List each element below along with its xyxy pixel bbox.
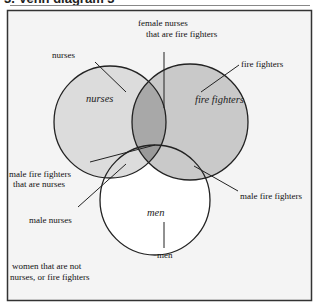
callout-men: men xyxy=(157,250,173,260)
venn-diagram: nurses fire fighters men female nurses t… xyxy=(0,0,317,305)
callout-male-nurses: male nurses xyxy=(29,215,72,225)
callout-women-not-2: nurses, or fire fighters xyxy=(10,272,90,282)
callout-women-not-1: women that are not xyxy=(12,261,82,271)
men-circle-label: men xyxy=(147,207,165,218)
callout-female-nurses-fire-1: female nurses xyxy=(138,18,188,28)
nurses-circle-label: nurses xyxy=(86,93,113,104)
callout-male-fire-nurses-2: that are nurses xyxy=(13,179,65,189)
callout-male-fire-fighters: male fire fighters xyxy=(240,191,302,201)
callout-fire-fighters: fire fighters xyxy=(241,59,284,69)
callout-nurses: nurses xyxy=(52,50,75,60)
fire-fighters-circle-label: fire fighters xyxy=(195,94,244,105)
callout-male-fire-nurses-1: male fire fighters xyxy=(9,169,71,179)
callout-female-nurses-fire-2: that are fire fighters xyxy=(146,29,218,39)
